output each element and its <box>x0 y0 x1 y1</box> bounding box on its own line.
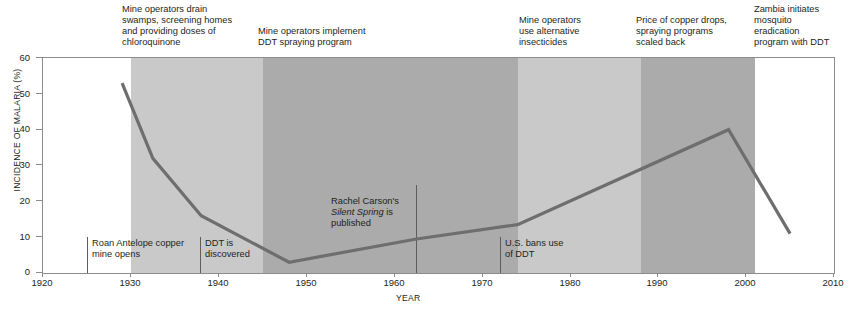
x-tick-label-2010: 2010 <box>813 277 853 288</box>
series-polyline <box>122 83 790 262</box>
x-tick-label-2000: 2000 <box>725 277 765 288</box>
x-axis-title: YEAR <box>396 293 420 303</box>
callout-copper-price-drop: Price of copper drops, spraying programs… <box>636 15 751 48</box>
callout-ddt-spraying-program: Mine operators implement DDT spraying pr… <box>258 26 413 48</box>
x-tick-label-1990: 1990 <box>637 277 677 288</box>
x-tick-label-1950: 1950 <box>286 277 326 288</box>
y-tick-label-10: 10 <box>4 231 30 242</box>
callout-drain-swamps: Mine operators drain swamps, screening h… <box>122 4 262 48</box>
x-tick-label-1940: 1940 <box>198 277 238 288</box>
x-tick-label-1980: 1980 <box>550 277 590 288</box>
y-tick-label-0: 0 <box>4 266 30 277</box>
x-tick-label-1970: 1970 <box>462 277 502 288</box>
series-line-chart <box>43 58 834 273</box>
x-tick-label-1920: 1920 <box>22 277 62 288</box>
callout-zambia-eradication: Zambia initiates mosquito eradication pr… <box>754 4 854 48</box>
plot-area: Roan Antelope copper mine opens DDT is d… <box>42 57 835 274</box>
y-tick-label-20: 20 <box>4 195 30 206</box>
callout-alternative-insecticides: Mine operators use alternative insectici… <box>519 15 619 48</box>
y-tick-label-40: 40 <box>4 123 30 134</box>
x-tick-label-1930: 1930 <box>110 277 150 288</box>
y-tick-label-50: 50 <box>4 88 30 99</box>
y-tick-label-30: 30 <box>4 159 30 170</box>
y-tick-label-60: 60 <box>4 52 30 63</box>
x-tick-label-1960: 1960 <box>374 277 414 288</box>
malaria-incidence-figure: Mine operators drain swamps, screening h… <box>0 0 855 315</box>
